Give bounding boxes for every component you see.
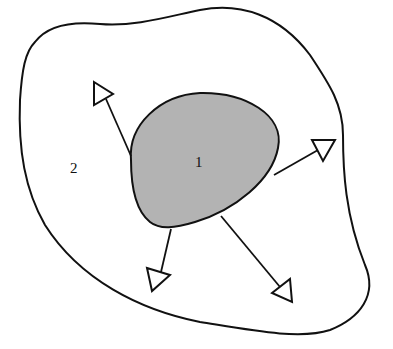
region-2-label: 2	[70, 160, 78, 176]
region-1-label: 1	[195, 154, 203, 170]
diagram-canvas: 1 2	[0, 0, 393, 349]
